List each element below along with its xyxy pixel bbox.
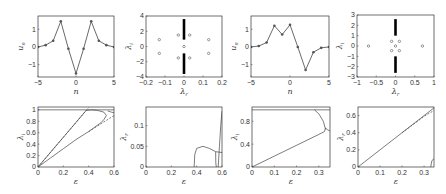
data-marker [289,24,292,27]
x-tick-label: 0 [36,169,40,176]
x-axis-label: n [287,87,292,96]
eigenvalue-marker [189,57,191,59]
eigenvalue-marker [189,34,191,36]
series-line [216,152,217,167]
series-line [431,158,434,167]
data-marker [44,44,47,47]
x-tick-label: 0 [394,79,398,86]
y-axis-label: λi [16,133,26,141]
y-tick-label: 0 [32,163,36,170]
series-line [218,111,222,167]
eigenvalue-marker [208,38,210,40]
data-marker [312,51,315,54]
x-tick-label: 0.6 [109,169,119,176]
y-axis-label: λr [119,133,129,142]
x-tick-label: 5 [327,79,331,86]
y-tick-label: 0.4 [26,141,36,148]
series-line [358,108,434,167]
x-tick-label: 0 [288,79,292,86]
y-tick-label: 0 [352,163,356,170]
eigenvalue-marker [158,52,160,54]
plot-data [158,19,210,74]
x-tick-label: 0 [74,79,78,86]
y-tick-label: 0.8 [26,118,36,125]
data-marker [82,47,85,50]
axes-box [146,107,222,167]
chart-panel-p3: −505−101nun [229,16,331,96]
y-tick-label: 4 [140,12,144,19]
y-tick-label: 1 [32,106,36,113]
x-tick-label: 0.1 [198,79,208,86]
x-tick-label: 1 [432,79,436,86]
x-tick-label: 0.2 [397,169,407,176]
y-tick-label: 0 [32,43,36,50]
y-tick-label: −1 [241,61,249,68]
x-tick-label: 0 [356,169,360,176]
x-tick-label: −0.1 [158,79,172,86]
y-tick-label: 2 [140,28,144,35]
x-tick-label: 0.4 [192,169,202,176]
axes-box [38,107,114,167]
y-tick-label: 0.1 [134,122,144,129]
x-tick-label: 0.2 [217,79,227,86]
data-line [251,25,329,70]
data-line [38,21,114,73]
y-tick-label: 0.4 [240,141,250,148]
eigenvalue-marker [177,34,179,36]
plot-data [37,20,116,75]
x-axis-label: λr [179,87,188,97]
eigenvalue-marker [394,45,396,47]
data-marker [52,39,55,42]
x-tick-label: 0 [144,169,148,176]
eigenvalue-marker [398,40,400,42]
x-axis-label: ε [289,177,293,186]
y-tick-label: 0 [245,43,249,50]
y-tick-label: 2 [351,22,355,29]
x-tick-label: −0.5 [369,79,383,86]
x-tick-label: 0.3 [419,169,429,176]
x-tick-label: 0 [250,169,254,176]
plot-data [367,19,423,73]
y-tick-label: 0.2 [346,146,356,153]
series-line [194,146,222,167]
x-axis-label: ε [394,177,398,186]
chart-panel-p4: −1−0.500.51−3−2−10123λrλi [335,11,436,96]
x-axis-label: ε [74,177,78,186]
y-tick-label: 0.2 [26,152,36,159]
y-tick-label: 0 [246,163,250,170]
data-marker [67,47,70,50]
plot-canvas: −505−101nun−0.2−0.100.10.2−4−2024λrλi−50… [0,0,446,194]
eigenvalue-marker [390,49,392,51]
chart-panel-p5: 00.20.40.600.20.40.60.81ελi [16,106,119,186]
data-marker [297,46,300,49]
y-tick-label: −2 [136,58,144,65]
x-axis-label: ε [182,177,186,186]
eigenvalue-marker [208,52,210,54]
x-tick-label: 0.6 [217,169,227,176]
x-tick-label: 0 [182,79,186,86]
plot-data [38,108,114,167]
y-tick-label: −1 [28,61,36,68]
series-line [89,116,114,132]
series-line [38,122,101,167]
data-marker [281,33,284,36]
y-tick-label: −2 [347,63,355,70]
data-marker [98,39,101,42]
data-marker [75,72,78,75]
y-tick-label: 0.8 [240,118,250,125]
data-marker [304,69,307,72]
eigenvalue-marker [158,38,160,40]
series-line [314,110,325,129]
eigenvalue-marker [390,40,392,42]
y-tick-label: 3 [351,11,355,18]
x-tick-label: 0.2 [58,169,68,176]
y-tick-label: −3 [347,73,355,80]
plot-data [250,24,331,72]
plot-data [252,110,330,167]
axes-box [38,16,114,77]
x-tick-label: 0.1 [269,169,279,176]
x-axis-label: λr [391,87,400,97]
y-axis-label: un [229,42,239,50]
series-line [324,128,330,131]
series-line [252,132,324,167]
